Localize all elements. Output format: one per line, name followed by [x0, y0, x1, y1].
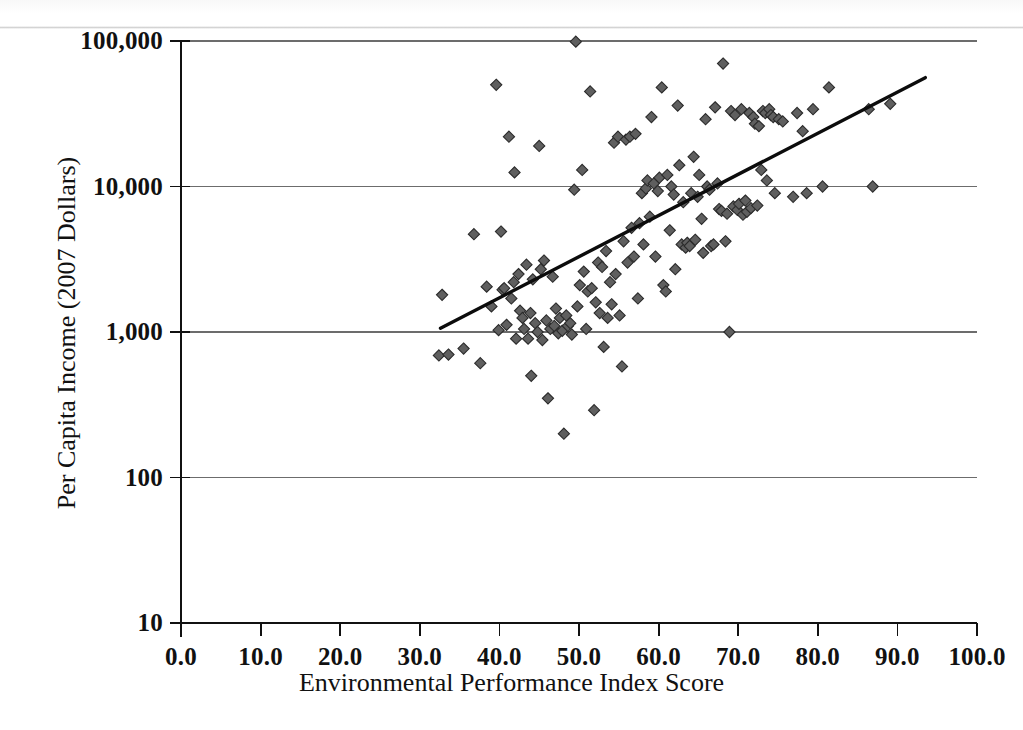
data-point-marker: [530, 318, 541, 329]
x-tick-label: 30.0: [398, 643, 443, 671]
data-point-marker: [769, 188, 780, 199]
data-point-marker: [694, 169, 705, 180]
data-point-marker: [720, 236, 731, 247]
data-point-marker: [674, 160, 685, 171]
data-point-marker: [606, 299, 617, 310]
x-tick-label: 70.0: [716, 643, 761, 671]
data-point-marker: [867, 181, 878, 192]
data-point-marker: [570, 36, 581, 47]
data-point-marker: [495, 226, 506, 237]
data-point-marker: [801, 188, 812, 199]
data-point-marker: [638, 239, 649, 250]
data-point-marker: [542, 393, 553, 404]
data-point-marker: [817, 181, 828, 192]
data-point-marker: [581, 323, 592, 334]
data-point-marker: [807, 104, 818, 115]
x-tick-label: 80.0: [796, 643, 841, 671]
data-point-marker: [558, 428, 569, 439]
axis-spines-group: [181, 41, 977, 637]
data-points-group: [433, 36, 896, 439]
data-point-marker: [761, 175, 772, 186]
data-point-marker: [670, 264, 681, 275]
data-point-marker: [468, 229, 479, 240]
trendline-group: [440, 78, 925, 329]
x-tick-label: 100.0: [948, 643, 1005, 671]
data-point-marker: [475, 358, 486, 369]
data-point-marker: [688, 151, 699, 162]
data-point-marker: [572, 301, 583, 312]
x-tick-label: 20.0: [318, 643, 363, 671]
x-tick-label: 10.0: [238, 643, 283, 671]
data-point-marker: [511, 333, 522, 344]
data-point-marker: [433, 350, 444, 361]
data-point-marker: [521, 259, 532, 270]
data-point-marker: [664, 225, 675, 236]
data-point-marker: [436, 289, 447, 300]
data-point-marker: [792, 107, 803, 118]
data-point-marker: [646, 111, 657, 122]
data-point-marker: [589, 405, 600, 416]
data-point-marker: [458, 343, 469, 354]
data-point-marker: [724, 326, 735, 337]
data-point-marker: [600, 245, 611, 256]
data-point-marker: [577, 164, 588, 175]
data-point-marker: [503, 131, 514, 142]
data-point-marker: [717, 58, 728, 69]
data-point-marker: [788, 191, 799, 202]
data-point-marker: [698, 247, 709, 258]
data-point-marker: [574, 280, 585, 291]
scatter-plot-figure: 101001,00010,000100,000 0.010.020.030.04…: [0, 0, 1023, 730]
data-point-marker: [509, 167, 520, 178]
data-point-marker: [598, 341, 609, 352]
data-point-marker: [585, 86, 596, 97]
data-point-marker: [590, 297, 601, 308]
data-point-marker: [578, 266, 589, 277]
data-point-marker: [823, 82, 834, 93]
data-point-marker: [696, 213, 707, 224]
data-point-marker: [632, 293, 643, 304]
data-point-marker: [700, 114, 711, 125]
data-point-marker: [650, 251, 661, 262]
data-point-marker: [481, 281, 492, 292]
data-point-marker: [885, 98, 896, 109]
data-point-marker: [443, 349, 454, 360]
x-tick-label: 0.0: [165, 643, 197, 671]
data-point-marker: [656, 82, 667, 93]
trendline: [440, 78, 925, 329]
data-point-marker: [672, 100, 683, 111]
data-point-marker: [797, 126, 808, 137]
data-point-marker: [614, 310, 625, 321]
data-point-marker: [491, 79, 502, 90]
x-tick-label: 60.0: [636, 643, 681, 671]
y-axis-title: Per Capita Income (2007 Dollars): [52, 23, 82, 643]
data-point-marker: [534, 140, 545, 151]
data-point-marker: [616, 361, 627, 372]
data-point-marker: [526, 370, 537, 381]
data-point-marker: [569, 184, 580, 195]
x-tick-label: 50.0: [557, 643, 602, 671]
x-axis-title: Environmental Performance Index Score: [0, 668, 1023, 698]
gridlines-group: [181, 41, 977, 478]
x-tick-label: 40.0: [477, 643, 522, 671]
x-tick-label: 90.0: [875, 643, 920, 671]
data-point-marker: [710, 102, 721, 113]
